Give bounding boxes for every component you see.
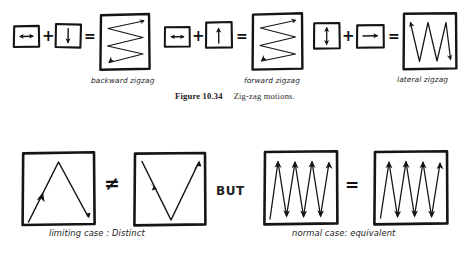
label-normal-case: normal case: equivalent <box>292 228 395 238</box>
equals-operator-2: = <box>236 29 248 43</box>
label-forward-zigzag: forward zigzag <box>244 76 300 85</box>
peak-path-icon <box>20 150 97 227</box>
equals-operator-3: = <box>388 29 400 43</box>
horizontal-double-arrow-icon <box>163 25 192 49</box>
label-backward-zigzag: backward zigzag <box>91 76 154 85</box>
equals-operator-normal-case: = <box>345 177 359 194</box>
horizontal-double-arrow-icon <box>12 24 41 49</box>
plus-operator-1: + <box>42 29 55 44</box>
forward-zigzag-icon <box>250 11 305 72</box>
label-lateral-zigzag: lateral zigzag <box>397 75 448 84</box>
figure-caption: Figure 10.34Zig-zag motions. <box>0 91 470 101</box>
down-arrow-icon <box>54 22 83 50</box>
plus-operator-3: + <box>342 29 355 44</box>
plus-operator-2: + <box>192 29 205 44</box>
connector-but: BUT <box>216 184 245 198</box>
backward-zigzag-icon <box>98 12 152 72</box>
figure-caption-text: Zig-zag motions. <box>234 91 295 101</box>
figure-caption-label: Figure 10.34 <box>175 91 223 101</box>
label-limiting-case: limiting case : Distinct <box>49 228 145 238</box>
right-arrow-icon <box>355 23 386 50</box>
figure-canvas: + = backward zigzag <box>0 0 470 260</box>
dense-zigzag-icon <box>372 149 450 227</box>
not-equal-operator: ≠ <box>104 174 120 193</box>
up-arrow-icon <box>204 20 234 50</box>
valley-path-icon <box>132 151 208 227</box>
equals-operator-1: = <box>84 29 96 43</box>
vertical-double-arrow-icon <box>312 21 342 51</box>
dense-zigzag-icon <box>262 149 340 227</box>
lateral-zigzag-icon <box>401 11 459 72</box>
